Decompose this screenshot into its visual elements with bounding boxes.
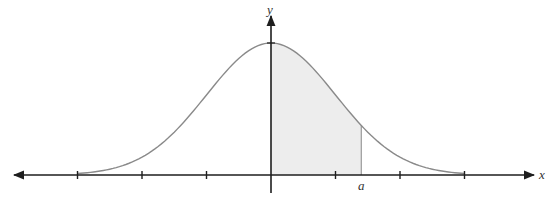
x-axis-label: x [538, 167, 545, 182]
y-axis-label: y [265, 2, 273, 17]
normal-curve-diagram: x y a [0, 0, 554, 205]
a-label: a [358, 178, 365, 193]
